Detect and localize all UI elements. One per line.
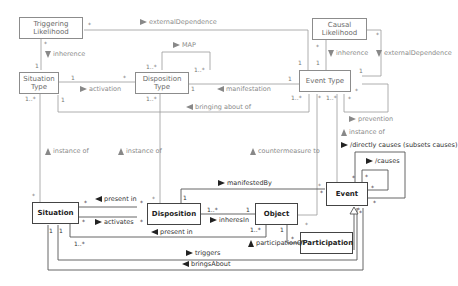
mult-sit-act: * xyxy=(82,219,85,225)
mult-disp-inst: * xyxy=(152,196,155,202)
mult-et-bring: 1..* xyxy=(291,95,302,101)
mult-prev-b: * xyxy=(348,96,351,102)
mult-prev-a: * xyxy=(355,88,358,94)
label-external-dependence-top: externalDependence xyxy=(140,19,217,26)
mult-part-obj: * xyxy=(291,236,294,242)
mult-et-clext: 1 xyxy=(359,68,363,74)
mult-ev-c-b: * xyxy=(371,185,374,191)
arrow-up-icon xyxy=(248,240,254,247)
label-causes: /causes xyxy=(366,158,400,165)
label-countermeasure-to: countermeasure to xyxy=(250,148,320,155)
mult-dt-act: * xyxy=(123,75,126,81)
label-directly-causes: /directly causes (subsets causes) xyxy=(341,142,458,149)
arrow-right-icon xyxy=(366,158,373,164)
label-map: MAP xyxy=(173,42,196,49)
mult-disp-inh: 1..* xyxy=(207,207,218,213)
mult-disp-manby: 1 xyxy=(183,195,187,201)
label-manifested-by: manifestedBy xyxy=(218,180,272,187)
label-instance-of-event: instance of xyxy=(341,129,385,136)
arrow-left-icon xyxy=(186,104,193,110)
mult-cl-inh: * xyxy=(316,44,319,50)
mult-et-man: 1 xyxy=(288,76,292,82)
arrow-right-icon xyxy=(210,217,217,223)
class-disposition-type[interactable]: Disposition Type xyxy=(135,72,189,94)
arrow-down-icon xyxy=(376,50,382,57)
mult-map-b: 1..* xyxy=(194,67,205,73)
mult-tl-inh: * xyxy=(44,41,47,47)
label-instance-of-situation: instance of xyxy=(45,148,89,155)
arrow-right-icon xyxy=(140,19,147,25)
mult-sit-presin-b: 1..* xyxy=(74,241,85,247)
mult-tl-ext: * xyxy=(88,22,91,28)
label-present-in-bottom: present in xyxy=(151,229,193,236)
label-prevention: prevention xyxy=(349,116,393,123)
mult-obj-counter: * xyxy=(305,222,308,228)
arrow-right-icon xyxy=(95,219,102,225)
class-participation[interactable]: /Participation xyxy=(300,232,353,254)
arrow-down-icon xyxy=(45,51,51,58)
mult-dt-man: 1 xyxy=(191,86,195,92)
arrow-right-icon xyxy=(349,116,356,122)
arrow-left-icon xyxy=(95,196,102,202)
arrow-right-icon xyxy=(186,250,193,256)
class-event[interactable]: Event xyxy=(326,182,368,206)
mult-map-a: 1..* xyxy=(146,64,157,70)
label-bringing-about-of: bringing about of xyxy=(186,104,251,111)
class-event-type[interactable]: Event Type xyxy=(299,70,351,92)
arrow-up-icon xyxy=(341,129,347,136)
mult-cl-ext: * xyxy=(376,32,379,38)
class-triggering-likelihood[interactable]: Triggering Likelihood xyxy=(19,17,83,39)
mult-ev-dc-b: * xyxy=(373,200,376,206)
mult-ev-trig: * xyxy=(359,210,362,216)
arrow-right-icon xyxy=(80,86,87,92)
label-brings-about: bringsAbout xyxy=(182,261,230,268)
class-object[interactable]: Object xyxy=(255,203,298,225)
class-situation-type[interactable]: Situation Type xyxy=(19,72,59,94)
class-causal-likelihood[interactable]: Causal Likelihood xyxy=(312,18,367,40)
mult-et-inst: 1..* xyxy=(326,95,337,101)
mult-et-inh: 1 xyxy=(316,60,320,66)
arrow-up-icon xyxy=(118,148,124,155)
mult-ev-c-a: * xyxy=(365,174,368,180)
mult-dt-inst: 1..* xyxy=(146,96,157,102)
label-activation: activation xyxy=(80,86,121,93)
label-instance-of-disposition: instance of xyxy=(118,148,162,155)
mult-sit-presin-a: * xyxy=(84,200,87,206)
mult-ev-manby: * xyxy=(320,190,323,196)
mult-st-inh: 1 xyxy=(35,63,39,69)
label-participation-of: participationOf xyxy=(248,240,304,247)
label-present-in-top: present in xyxy=(95,196,137,203)
arrow-up-icon xyxy=(250,148,256,155)
arrow-left-icon xyxy=(217,86,224,92)
class-situation[interactable]: Situation xyxy=(32,202,79,224)
mult-disp-presin-a: * xyxy=(140,200,143,206)
label-inherence-left: inherence xyxy=(45,51,85,58)
mult-disp-act: * xyxy=(140,219,143,225)
mult-obj-presin: 1..* xyxy=(250,227,261,233)
mult-sit-inst: * xyxy=(32,193,35,199)
label-triggers: triggers xyxy=(186,250,220,257)
label-inheres-in: inheresIn xyxy=(210,217,249,224)
mult-st-act: 1 xyxy=(71,75,75,81)
label-external-dependence-right: externalDependence xyxy=(376,50,452,57)
mult-et-counter: * xyxy=(318,95,321,101)
mult-ev-dc-a: * xyxy=(352,175,355,181)
label-inherence-right: inherence xyxy=(328,50,368,57)
mult-st-inst: 1..* xyxy=(25,96,36,102)
arrow-left-icon xyxy=(182,261,189,267)
arrow-down-icon xyxy=(328,50,334,57)
mult-sit-bring: 1 xyxy=(49,228,53,234)
arrow-right-icon xyxy=(173,42,180,48)
arrow-up-icon xyxy=(45,148,51,155)
label-activates: activates xyxy=(95,219,134,226)
arrow-right-icon xyxy=(218,180,225,186)
arrow-left-icon xyxy=(151,229,158,235)
mult-et-ext: 1 xyxy=(298,60,302,66)
mult-obj-part: 1 xyxy=(280,227,284,233)
class-disposition[interactable]: Disposition xyxy=(147,203,201,225)
mult-obj-inh: 1 xyxy=(246,207,250,213)
arrow-right-icon xyxy=(341,142,348,148)
label-manifestation: manifestation xyxy=(217,86,271,93)
mult-st-bring: 1 xyxy=(61,97,65,103)
